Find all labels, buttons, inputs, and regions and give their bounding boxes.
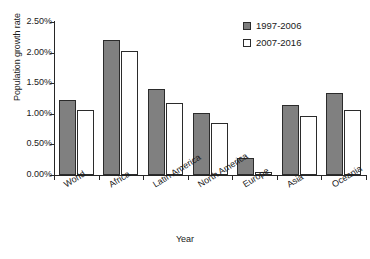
filled-square-icon <box>243 22 251 30</box>
y-axis-tick-labels: 0.00%0.50%1.00%1.50%2.00%2.50% <box>4 0 52 259</box>
y-axis-tick-mark <box>50 53 54 54</box>
x-axis-title: Year <box>0 234 370 244</box>
bar-world-2007-2016 <box>77 110 94 175</box>
bar-asia-2007-2016 <box>300 116 317 175</box>
x-axis-category-labels: WorldAfricaLatin AmericaNorth AmericaEur… <box>54 175 366 235</box>
bar-chart: Population growth rate 0.00%0.50%1.00%1.… <box>0 0 370 259</box>
bar-africa-1997-2006 <box>103 40 120 175</box>
bar-africa-2007-2016 <box>121 51 138 175</box>
legend-label: 2007-2016 <box>256 38 301 48</box>
y-axis-tick-mark <box>50 144 54 145</box>
y-axis-tick-mark <box>50 22 54 23</box>
chart-legend: 1997-20062007-2016 <box>243 17 363 51</box>
x-axis-label-asia: Asia <box>285 172 305 190</box>
bar-latin-america-1997-2006 <box>148 89 165 175</box>
bar-north-america-1997-2006 <box>193 113 210 175</box>
legend-label: 1997-2006 <box>256 21 301 31</box>
y-axis-tick-label: 2.50% <box>10 17 52 26</box>
bar-asia-1997-2006 <box>282 105 299 175</box>
legend-item-1997-2006: 1997-2006 <box>243 17 363 34</box>
bar-world-1997-2006 <box>59 100 76 175</box>
y-axis-tick-label: 1.50% <box>10 78 52 87</box>
y-axis-tick-mark <box>50 114 54 115</box>
legend-item-2007-2016: 2007-2016 <box>243 34 363 51</box>
y-axis-tick-label: 0.50% <box>10 139 52 148</box>
y-axis-tick-label: 1.00% <box>10 109 52 118</box>
open-square-icon <box>243 39 251 47</box>
y-axis-tick-label: 0.00% <box>10 170 52 179</box>
bar-oceania-1997-2006 <box>326 93 343 175</box>
y-axis-tick-mark <box>50 83 54 84</box>
y-axis-line <box>54 21 55 176</box>
y-axis-tick-label: 2.00% <box>10 48 52 57</box>
x-axis-tick-mark <box>366 175 367 180</box>
